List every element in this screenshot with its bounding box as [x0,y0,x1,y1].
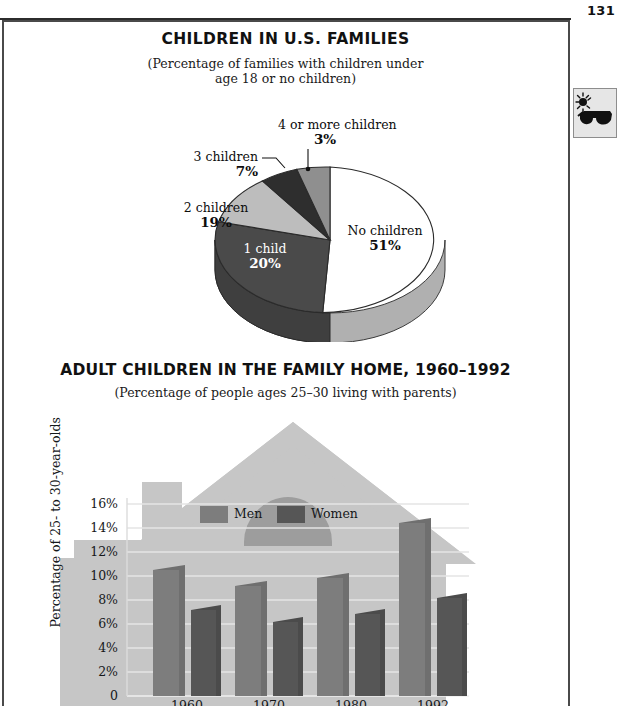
pie-leader-lines [262,149,308,168]
pie-chart-title: CHILDREN IN U.S. FAMILIES [0,30,571,48]
bar-1992-men [399,523,425,696]
bar-1960-men [153,570,179,696]
pie-label-1-child-text: 1 child [244,241,287,256]
legend-label-men: Men [234,506,262,521]
pie-label-no-children-value: 51% [330,238,440,252]
page-root: 131 CHILDREN IN U.S. FAMILI [0,0,627,706]
pie-label-1-child: 1 child 20% [225,242,305,270]
x-tick-1980: 1980 [316,698,386,706]
bar-chart-title: ADULT CHILDREN IN THE FAMILY HOME, 1960–… [0,361,571,379]
pie-label-1-child-value: 20% [225,256,305,270]
pie-label-no-children: No children 51% [330,224,440,252]
pie-chart: 4 or more children 3% 3 children 7% 2 ch… [150,112,480,342]
pie-label-4-or-more-children-text: 4 or more children [278,117,397,132]
y-tick-10: 10% [78,568,118,583]
pie-label-4-or-more-children: 4 or more children 3% [278,118,372,146]
x-tick-1970: 1970 [234,698,304,706]
y-tick-4: 4% [78,640,118,655]
y-tick-16: 16% [78,496,118,511]
y-tick-14: 14% [78,520,118,535]
x-tick-1960: 1960 [152,698,222,706]
pie-leader-dot [306,167,311,172]
y-tick-8: 8% [78,592,118,607]
bar-1992-women [437,598,462,696]
pie-label-2-children-value: 19% [164,215,268,229]
pie-label-2-children: 2 children 19% [164,201,268,229]
pie-label-3-children: 3 children 7% [140,150,258,178]
y-tick-0: 0 [78,688,118,703]
sunglasses-sun-icon [573,88,617,138]
y-tick-2: 2% [78,664,118,679]
pie-subtitle-line1: (Percentage of families with children un… [148,56,424,71]
pie-label-no-children-text: No children [348,223,423,238]
pie-subtitle-line2: age 18 or no children) [215,71,356,86]
sunglasses-sun-glyph [574,89,616,137]
legend-label-women: Women [311,506,358,521]
bar-chart-y-axis-label: Percentage of 25- to 30-year-olds [48,448,63,628]
bar-1980-women [355,614,380,696]
pie-label-3-children-text: 3 children [194,149,258,164]
pie-label-4-or-more-children-value: 3% [278,132,372,146]
bar-1970-men [235,586,261,696]
bar-1960-women [191,610,216,696]
bar-chart: Men Women Percentage of 25- to 30-year-o… [14,410,559,706]
pie-label-3-children-value: 7% [140,164,258,178]
x-tick-1992: 1992 [398,698,468,706]
y-tick-12: 12% [78,544,118,559]
legend-swatch-men [200,506,228,523]
y-tick-6: 6% [78,616,118,631]
pie-label-2-children-text: 2 children [184,200,248,215]
bar-chart-subtitle: (Percentage of people ages 25–30 living … [0,385,571,400]
bar-1980-men [317,578,343,696]
page-number: 131 [587,3,615,18]
legend-swatch-women [277,506,305,523]
pie-chart-subtitle: (Percentage of families with children un… [0,56,571,86]
bar-1970-women [273,622,298,696]
